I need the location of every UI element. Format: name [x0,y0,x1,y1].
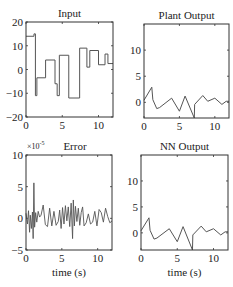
panel-plant-output: Plant Output 0510 0510 [130,9,229,132]
x-tick-label: 5 [177,120,183,132]
y-tick-label: −20 [6,111,24,123]
axes-box [26,155,112,250]
y-tick-label: 5 [18,181,24,193]
y-tick-labels: −20−1001020 [6,16,24,123]
x-tick-label: 0 [141,120,147,132]
ticks [26,22,113,117]
panel-title: NN Output [160,140,209,152]
y-tick-label: 10 [12,40,24,52]
y-tick-label: 20 [12,16,24,28]
panel-title: Error [63,140,87,152]
panel-error: Error ×10-5 −50510 0510 time (s) [11,140,112,279]
y-tick-label: 10 [130,44,142,56]
data-line [141,218,228,250]
y-tick-label: 10 [12,149,24,161]
x-tick-labels: 0510 [23,119,104,131]
y-tick-label: 10 [127,175,139,187]
x-tick-labels: 0510 [141,120,221,132]
ticks [141,155,228,250]
x-tick-label: 10 [92,252,104,264]
axes-box [141,155,228,250]
panel-nn-output: NN Output 0510 0510 time (s) [127,140,228,279]
x-tick-label: 5 [60,119,66,131]
x-tick-label: 10 [208,252,220,264]
y-tick-label: −10 [6,87,24,99]
x-tick-label: 5 [59,252,65,264]
x-tick-labels: 0510 [23,252,103,264]
x-tick-label: 5 [175,252,181,264]
x-tick-label: 0 [23,252,29,264]
axes-box [26,22,113,117]
ticks [144,24,229,118]
y-tick-label: −5 [11,244,23,256]
y-multiplier: ×10-5 [27,140,45,151]
data-line [26,34,113,98]
x-tick-label: 0 [23,119,29,131]
y-tick-label: 0 [133,227,139,239]
data-line [144,87,229,118]
x-tick-label: 0 [138,252,144,264]
y-tick-label: 0 [136,96,142,108]
y-tick-labels: 0510 [127,175,139,239]
y-tick-label: 5 [133,201,139,213]
x-tick-labels: 0510 [138,252,219,264]
multiplier-exponent: -5 [40,140,45,146]
figure: Input −20−1001020 0510 Plant Output 0510… [0,0,233,287]
panel-input: Input −20−1001020 0510 [6,7,113,131]
panel-title: Plant Output [159,9,215,21]
panel-title: Input [58,7,81,19]
x-axis-label: time (s) [168,266,202,279]
x-tick-label: 10 [209,120,221,132]
x-axis-label: time (s) [52,266,86,279]
y-tick-label: 0 [18,64,24,76]
x-tick-label: 10 [93,119,105,131]
data-line [26,183,112,239]
y-tick-label: 0 [18,212,24,224]
y-tick-labels: 0510 [130,44,142,108]
ticks [26,155,112,250]
y-tick-labels: −50510 [11,149,23,256]
axes-box [144,24,229,118]
y-tick-label: 5 [136,70,142,82]
multiplier-base: ×10 [27,142,40,151]
